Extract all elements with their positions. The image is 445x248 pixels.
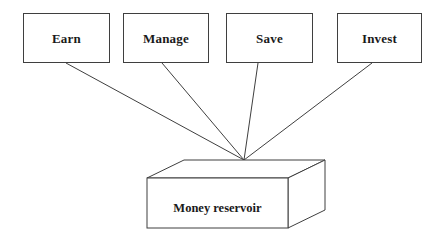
node-label-save: Save <box>256 32 283 45</box>
node-label-invest: Invest <box>362 32 397 45</box>
connector-manage-to-reservoir <box>162 63 244 160</box>
node-box-invest[interactable]: Invest <box>337 13 422 63</box>
node-label-earn: Earn <box>52 32 81 45</box>
money-reservoir-cuboid <box>147 160 325 228</box>
money-reservoir-label: Money reservoir <box>147 202 288 215</box>
node-box-save[interactable]: Save <box>226 13 313 63</box>
node-box-manage[interactable]: Manage <box>123 13 209 63</box>
diagram-canvas: Earn Manage Save Invest Money reservoir <box>0 0 445 248</box>
connector-invest-to-reservoir <box>244 63 372 160</box>
node-box-earn[interactable]: Earn <box>23 13 110 63</box>
connector-lines <box>66 63 372 160</box>
node-label-manage: Manage <box>143 32 189 45</box>
connector-earn-to-reservoir <box>66 63 244 160</box>
connector-save-to-reservoir <box>244 63 258 160</box>
